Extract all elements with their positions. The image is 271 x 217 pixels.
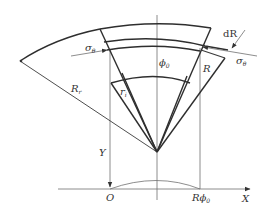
ring-top-arc — [100, 24, 211, 29]
label-X: X — [241, 193, 250, 204]
ring-arc-3 — [107, 46, 200, 51]
label-sigma-right: σθ — [236, 55, 247, 67]
outer-radius-point — [20, 60, 23, 63]
label-R: R — [202, 63, 211, 74]
r-triangle-edge — [157, 58, 225, 152]
label-Y: Y — [99, 147, 107, 158]
inner-right-line — [157, 76, 187, 152]
label-phi0: ϕ0 — [159, 57, 170, 69]
label-R-phi0: Rϕ0 — [191, 192, 210, 204]
label-dR: dR — [223, 28, 237, 39]
sector-stress-diagram: σθ dR σθ ϕ0 R Rr ri Y O Rϕ0 X — [0, 0, 271, 217]
label-Rr: Rr — [70, 83, 83, 95]
r-triangle-top — [201, 50, 225, 58]
inner-left-line — [111, 83, 157, 152]
label-O: O — [106, 192, 114, 203]
label-ri: ri — [120, 86, 127, 98]
sigma-right-line — [203, 47, 257, 56]
projection-arc — [110, 181, 200, 190]
label-sigma-left: σθ — [85, 42, 96, 54]
